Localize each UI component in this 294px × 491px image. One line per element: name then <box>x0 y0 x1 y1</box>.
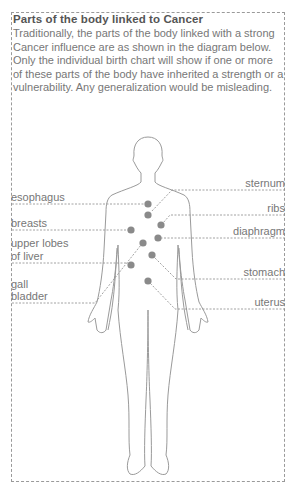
label-of-liver: of liver <box>11 250 43 262</box>
dot-breasts <box>127 226 134 233</box>
dot-ribs <box>157 221 164 228</box>
dot-upper-lobes-of-liver <box>127 261 134 268</box>
dot-stomach <box>148 251 155 258</box>
label-esophagus: esophagus <box>11 191 65 203</box>
label-sternum: sternum <box>245 177 285 189</box>
label-bladder: bladder <box>11 290 48 302</box>
label-ribs: ribs <box>267 202 285 214</box>
dot-diaphragm <box>154 234 161 241</box>
leader-ribs <box>163 215 285 223</box>
dot-sternum <box>144 211 151 218</box>
dot-esophagus <box>144 200 151 207</box>
dot-gall-bladder <box>139 239 146 246</box>
label-gall: gall <box>11 278 28 290</box>
body-outline <box>88 137 208 475</box>
dot-uterus <box>144 277 151 284</box>
label-upper-lobes: upper lobes <box>11 237 69 249</box>
label-diaphragm: diaphragm <box>233 225 285 237</box>
label-uterus: uterus <box>254 296 285 308</box>
label-stomach: stomach <box>243 266 285 278</box>
label-breasts: breasts <box>11 217 47 229</box>
leader-sternum <box>151 190 285 212</box>
